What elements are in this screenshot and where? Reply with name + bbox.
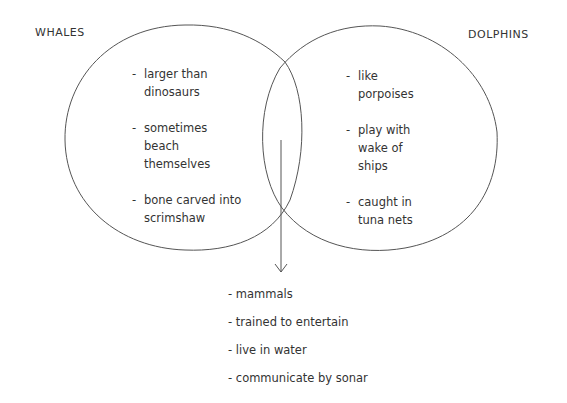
whales-label: WHALES bbox=[35, 26, 85, 39]
overlap-item: - live in water bbox=[228, 343, 307, 357]
whales-item: - bone carved into scrimshaw bbox=[144, 191, 244, 227]
dolphins-item: - like porpoises bbox=[358, 67, 428, 103]
whales-item: - larger than dinosaurs bbox=[144, 65, 222, 101]
whales-item: - sometimes beach themselves bbox=[144, 119, 220, 173]
overlap-item: - mammals bbox=[228, 287, 293, 301]
dolphins-item: - play with wake of ships bbox=[358, 121, 422, 175]
dolphins-item: - caught in tuna nets bbox=[358, 193, 428, 229]
dolphins-label: DOLPHINS bbox=[468, 28, 529, 41]
overlap-item: - trained to entertain bbox=[228, 315, 349, 329]
overlap-item: - communicate by sonar bbox=[228, 371, 368, 385]
